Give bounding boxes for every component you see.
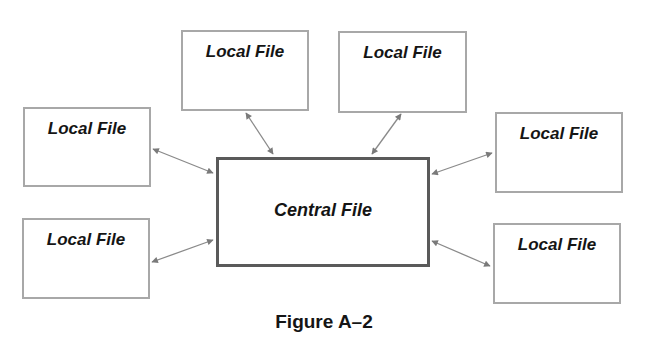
local-file-box-right-upper: Local File	[495, 112, 623, 193]
figure-caption: Figure A–2	[0, 311, 648, 333]
arrow-left-upper	[153, 149, 213, 173]
local-file-label: Local File	[183, 42, 307, 62]
arrow-right-upper	[432, 153, 492, 174]
local-file-box-top-right: Local File	[338, 31, 467, 113]
local-file-label: Local File	[497, 124, 621, 144]
arrow-left-lower	[152, 240, 213, 262]
central-file-box: Central File	[216, 157, 430, 267]
local-file-box-right-lower: Local File	[493, 223, 621, 304]
local-file-box-left-upper: Local File	[23, 107, 151, 187]
local-file-box-top-left: Local File	[181, 30, 309, 111]
local-file-box-left-lower: Local File	[22, 218, 150, 299]
arrow-top-right	[372, 114, 401, 154]
arrow-right-lower	[432, 241, 490, 266]
local-file-label: Local File	[340, 43, 465, 63]
central-file-label: Central File	[219, 200, 427, 221]
arrow-top-left	[246, 113, 273, 154]
local-file-label: Local File	[495, 235, 619, 255]
local-file-label: Local File	[25, 119, 149, 139]
local-file-label: Local File	[24, 230, 148, 250]
